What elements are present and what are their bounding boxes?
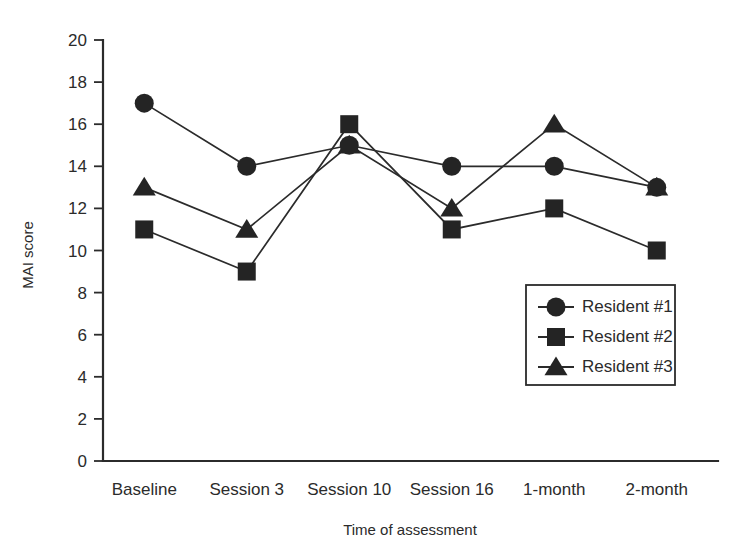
chart-canvas: MAI score Time of assessment 20181614121…	[0, 0, 750, 559]
y-axis-ticks: 20181614121086420	[68, 31, 103, 471]
square-data-point	[135, 220, 153, 238]
y-tick-label: 0	[78, 452, 87, 471]
y-axis-title: MAI score	[19, 221, 36, 289]
x-tick-label: Session 10	[307, 480, 391, 499]
series-markers	[133, 94, 669, 281]
y-tick-label: 16	[68, 115, 87, 134]
square-data-point	[545, 199, 563, 217]
series-line	[144, 103, 657, 187]
square-data-point	[238, 263, 256, 281]
square-data-point	[443, 220, 461, 238]
y-tick-label: 6	[78, 326, 87, 345]
y-tick-label: 14	[68, 157, 87, 176]
circle-data-point	[442, 157, 461, 176]
y-tick-label: 12	[68, 199, 87, 218]
circle-data-point	[237, 157, 256, 176]
x-axis-tick-labels: BaselineSession 3Session 10Session 161-m…	[112, 480, 688, 499]
series-line	[144, 124, 657, 271]
legend-label: Resident #1	[582, 297, 673, 316]
square-marker-icon	[547, 328, 565, 346]
series-lines	[144, 103, 657, 271]
x-tick-label: Session 3	[209, 480, 284, 499]
circle-data-point	[545, 157, 564, 176]
x-axis-title: Time of assessment	[343, 521, 477, 538]
circle-data-point	[647, 178, 666, 197]
y-tick-label: 4	[78, 368, 87, 387]
circle-data-point	[340, 136, 359, 155]
legend: Resident #1Resident #2Resident #3	[526, 285, 675, 385]
line-chart: MAI score Time of assessment 20181614121…	[0, 0, 750, 559]
square-data-point	[648, 242, 666, 260]
y-tick-label: 10	[68, 242, 87, 261]
triangle-data-point	[543, 114, 566, 133]
circle-data-point	[135, 94, 154, 113]
y-tick-label: 20	[68, 31, 87, 50]
square-data-point	[340, 115, 358, 133]
x-tick-label: 1-month	[523, 480, 585, 499]
y-tick-label: 8	[78, 284, 87, 303]
triangle-data-point	[133, 177, 156, 196]
x-tick-label: Baseline	[112, 480, 177, 499]
x-tick-label: Session 16	[410, 480, 494, 499]
y-tick-label: 2	[78, 410, 87, 429]
circle-marker-icon	[547, 298, 566, 317]
legend-items: Resident #1Resident #2Resident #3	[538, 297, 673, 376]
legend-label: Resident #2	[582, 327, 673, 346]
legend-label: Resident #3	[582, 357, 673, 376]
series-line	[144, 124, 657, 229]
y-tick-label: 18	[68, 73, 87, 92]
x-tick-label: 2-month	[626, 480, 688, 499]
